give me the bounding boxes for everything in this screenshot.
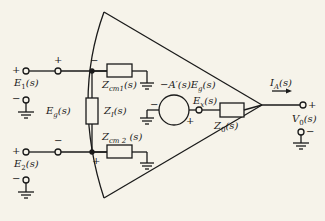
- bottom-input-sign: −: [54, 136, 62, 146]
- e2-minus-terminal: [23, 177, 29, 183]
- output-plus-terminal: [300, 102, 306, 108]
- e1-label: E1(s): [14, 78, 39, 91]
- z0-resistor: [220, 103, 244, 117]
- dependent-voltage-source: [159, 95, 189, 125]
- zcm1-label: Zcm1(s): [102, 80, 137, 93]
- output-current-label: IA(s): [270, 78, 292, 91]
- e2-plus-sign: +: [12, 146, 20, 156]
- bottom-input-terminal: [55, 149, 61, 155]
- source-minus-sign: −: [150, 100, 158, 110]
- zcm1-resistor: [107, 64, 132, 77]
- eg-label: Eg(s): [46, 106, 71, 119]
- output-minus-terminal: [298, 129, 304, 135]
- output-plus-sign: +: [308, 100, 316, 110]
- zcm2-resistor: [107, 145, 132, 158]
- e1-plus-sign: +: [12, 65, 20, 75]
- top-node-sign: −: [90, 56, 98, 66]
- source-plus-sign: +: [186, 116, 194, 126]
- e2-minus-sign: −: [12, 174, 20, 184]
- z0-label: Z0(s): [214, 121, 238, 134]
- e2-label: E2(s): [14, 159, 39, 172]
- source-label: −A′(s)Eg(s): [160, 80, 216, 93]
- e1-minus-terminal: [23, 97, 29, 103]
- zcm2-label: Zcm 2 (s): [102, 132, 142, 145]
- output-minus-sign: −: [306, 127, 314, 137]
- top-input-sign: +: [54, 55, 62, 65]
- op-amp-circuit-diagram: + E1(s) − + Eg(s) + E2(s) − − − + Zcm1(s…: [0, 0, 325, 221]
- ex-label: Ex(s): [193, 96, 217, 109]
- e1-minus-sign: −: [12, 94, 20, 104]
- bottom-node-sign: +: [92, 156, 100, 166]
- e1-plus-terminal: [23, 68, 29, 74]
- top-input-terminal: [55, 68, 61, 74]
- zi-label: ZI(s): [104, 106, 127, 119]
- zi-resistor: [86, 98, 98, 124]
- e2-plus-terminal: [23, 149, 29, 155]
